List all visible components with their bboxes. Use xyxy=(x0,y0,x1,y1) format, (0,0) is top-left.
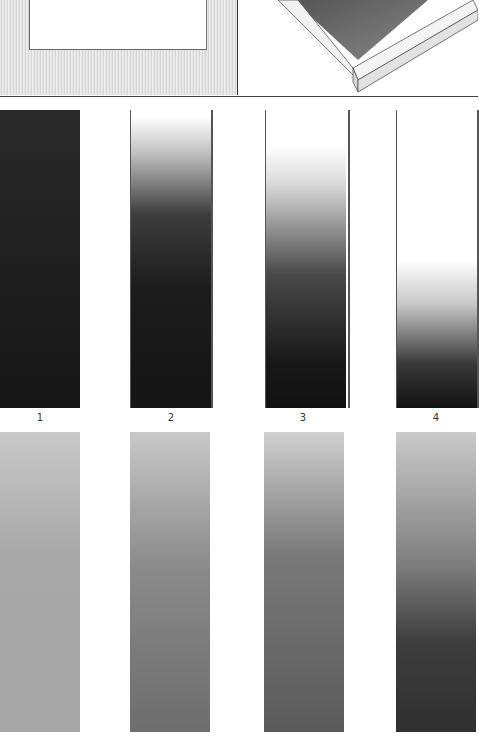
swatch-label-1: 1 xyxy=(0,412,80,423)
perspective-frame-icon xyxy=(238,0,478,95)
gray-swatch-2 xyxy=(130,432,210,732)
swatch-label-2: 2 xyxy=(131,412,211,423)
frame-illustration-strip xyxy=(0,0,478,97)
graphite-swatch-4 xyxy=(397,110,477,408)
graphite-swatch-2 xyxy=(131,110,211,408)
swatch-edge xyxy=(477,110,479,408)
gray-swatch-4 xyxy=(396,432,476,732)
gray-swatch-3 xyxy=(264,432,344,732)
swatch-edge xyxy=(348,110,350,408)
swatch-edge xyxy=(211,110,213,408)
graphite-swatch-1 xyxy=(0,110,80,408)
gray-swatch-1 xyxy=(0,432,80,732)
graphite-swatch-3 xyxy=(266,110,346,408)
flat-frame-drawing xyxy=(0,0,238,95)
swatch-label-4: 4 xyxy=(396,412,476,423)
frame-opening xyxy=(29,0,207,50)
swatch-label-3: 3 xyxy=(263,412,343,423)
perspective-frame-drawing xyxy=(238,0,478,95)
